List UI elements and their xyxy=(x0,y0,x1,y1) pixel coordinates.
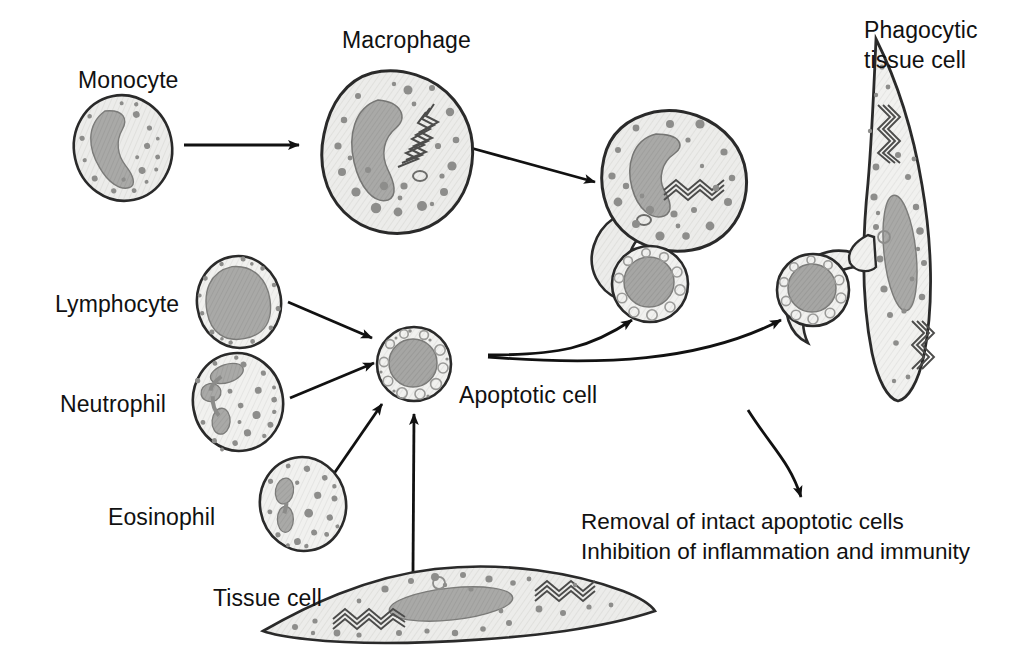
label-lymphocyte: Lymphocyte xyxy=(55,291,179,317)
cell-engulfed-apoptotic-macrophage xyxy=(612,246,688,322)
arrow-tissue-cell-to-apoptotic xyxy=(413,414,414,573)
cell-engulfed-apoptotic-tissue xyxy=(777,254,849,326)
cell-apoptotic xyxy=(377,327,451,401)
outcome-text-line1: Removal of intact apoptotic cells xyxy=(581,509,904,534)
label-monocyte: Monocyte xyxy=(78,67,179,93)
cell-macrophage xyxy=(322,71,473,234)
label-tissue-cell: Tissue cell xyxy=(213,585,322,611)
label-eosinophil: Eosinophil xyxy=(108,504,215,530)
apoptotic-cell-condensed-nucleus xyxy=(389,339,437,387)
label-apoptotic-cell: Apoptotic cell xyxy=(459,382,597,408)
diagram-canvas: Monocyte xyxy=(0,0,1018,669)
label-phagocytic-tissue-cell-line1: Phagocytic xyxy=(864,17,978,43)
label-phagocytic-tissue-cell-line2: tissue cell xyxy=(864,47,966,73)
cell-clearance-diagram: Monocyte xyxy=(0,0,1018,669)
outcome-text-line2: Inhibition of inflammation and immunity xyxy=(581,539,971,564)
label-neutrophil: Neutrophil xyxy=(60,391,166,417)
label-macrophage: Macrophage xyxy=(342,27,471,53)
